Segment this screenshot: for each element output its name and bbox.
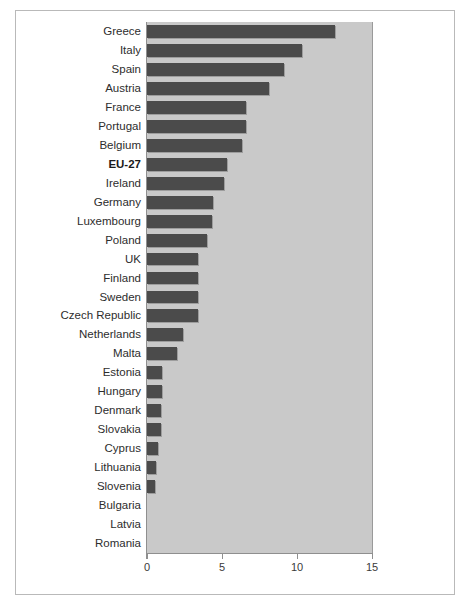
bar-row: UK bbox=[0, 250, 472, 269]
bar bbox=[147, 101, 246, 114]
category-label: Germany bbox=[0, 193, 141, 212]
category-label: Finland bbox=[0, 269, 141, 288]
bar-row: Poland bbox=[0, 231, 472, 250]
category-label: France bbox=[0, 98, 141, 117]
bar bbox=[147, 215, 212, 228]
bar bbox=[147, 291, 198, 304]
bar-row: Portugal bbox=[0, 117, 472, 136]
x-axis-line bbox=[147, 553, 373, 554]
bar bbox=[147, 272, 198, 285]
chart-figure: GreeceItalySpainAustriaFrancePortugalBel… bbox=[0, 0, 472, 610]
bar bbox=[147, 177, 224, 190]
x-tick-mark bbox=[297, 554, 298, 559]
category-label: Lithuania bbox=[0, 458, 141, 477]
bar bbox=[147, 234, 207, 247]
category-label: Slovenia bbox=[0, 477, 141, 496]
category-label: Luxembourg bbox=[0, 212, 141, 231]
category-label: EU-27 bbox=[0, 155, 141, 174]
bar-row: Estonia bbox=[0, 363, 472, 382]
bar bbox=[147, 366, 162, 379]
bar bbox=[147, 44, 302, 57]
category-label: Denmark bbox=[0, 401, 141, 420]
bar bbox=[147, 309, 198, 322]
bar bbox=[147, 120, 246, 133]
x-tick-mark bbox=[222, 554, 223, 559]
category-label: UK bbox=[0, 250, 141, 269]
x-tick-mark bbox=[372, 554, 373, 559]
bar-row: Netherlands bbox=[0, 325, 472, 344]
category-label: Italy bbox=[0, 41, 141, 60]
bar-row: Belgium bbox=[0, 136, 472, 155]
category-label: Spain bbox=[0, 60, 141, 79]
category-label: Cyprus bbox=[0, 439, 141, 458]
x-tick-label: 5 bbox=[219, 561, 225, 573]
bar bbox=[147, 63, 284, 76]
bar bbox=[147, 442, 158, 455]
bar bbox=[147, 25, 335, 38]
bar-row: Finland bbox=[0, 269, 472, 288]
bar bbox=[147, 404, 161, 417]
bar-row: Ireland bbox=[0, 174, 472, 193]
bar bbox=[147, 480, 155, 493]
bar-row: Denmark bbox=[0, 401, 472, 420]
bar bbox=[147, 253, 198, 266]
category-label: Czech Republic bbox=[0, 306, 141, 325]
x-tick-mark bbox=[147, 554, 148, 559]
bar-row: Lithuania bbox=[0, 458, 472, 477]
x-tick-label: 0 bbox=[144, 561, 150, 573]
category-label: Slovakia bbox=[0, 420, 141, 439]
category-label: Sweden bbox=[0, 288, 141, 307]
bar-row: Hungary bbox=[0, 382, 472, 401]
bar-row: Latvia bbox=[0, 515, 472, 534]
bar-row: EU-27 bbox=[0, 155, 472, 174]
x-tick-label: 10 bbox=[291, 561, 303, 573]
bar-row: Greece bbox=[0, 22, 472, 41]
bar-row: Czech Republic bbox=[0, 306, 472, 325]
category-label: Portugal bbox=[0, 117, 141, 136]
bar-row: France bbox=[0, 98, 472, 117]
bar-row: Slovenia bbox=[0, 477, 472, 496]
x-tick-label: 15 bbox=[366, 561, 378, 573]
category-label: Netherlands bbox=[0, 325, 141, 344]
bar-row: Spain bbox=[0, 60, 472, 79]
bar bbox=[147, 158, 227, 171]
bar bbox=[147, 423, 161, 436]
bar bbox=[147, 196, 213, 209]
category-label: Hungary bbox=[0, 382, 141, 401]
bar-row: Austria bbox=[0, 79, 472, 98]
category-label: Belgium bbox=[0, 136, 141, 155]
category-label: Malta bbox=[0, 344, 141, 363]
category-label: Romania bbox=[0, 534, 141, 553]
category-label: Ireland bbox=[0, 174, 141, 193]
bar-row: Malta bbox=[0, 344, 472, 363]
bar-row: Italy bbox=[0, 41, 472, 60]
category-label: Austria bbox=[0, 79, 141, 98]
bar bbox=[147, 385, 162, 398]
bar-row: Cyprus bbox=[0, 439, 472, 458]
bar bbox=[147, 328, 183, 341]
bar-row: Germany bbox=[0, 193, 472, 212]
category-label: Bulgaria bbox=[0, 496, 141, 515]
category-label: Poland bbox=[0, 231, 141, 250]
bar-row: Slovakia bbox=[0, 420, 472, 439]
category-label: Estonia bbox=[0, 363, 141, 382]
bar bbox=[147, 139, 242, 152]
category-label: Latvia bbox=[0, 515, 141, 534]
bar bbox=[147, 461, 156, 474]
bar-row: Sweden bbox=[0, 288, 472, 307]
bar-row: Luxembourg bbox=[0, 212, 472, 231]
category-label: Greece bbox=[0, 22, 141, 41]
bar bbox=[147, 82, 269, 95]
bar-row: Bulgaria bbox=[0, 496, 472, 515]
bar bbox=[147, 347, 177, 360]
bar-row: Romania bbox=[0, 534, 472, 553]
